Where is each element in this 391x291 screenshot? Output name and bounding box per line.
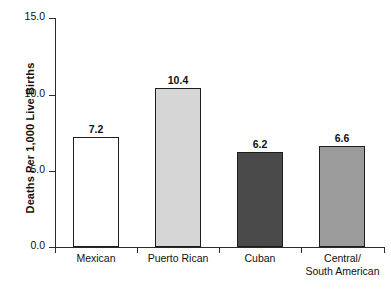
y-tick-label-0: 0.0 [30, 239, 45, 251]
x-category-label-puerto-rican: Puerto Rican [137, 252, 219, 265]
bar-central-south-american[interactable]: 6.6 [319, 146, 365, 247]
x-axis-line [55, 247, 385, 248]
x-category-label-central-south-american: Central/ South American [301, 252, 384, 277]
y-tick-label-5: 5.0 [30, 163, 45, 175]
x-category-label-mexican-line1: Mexican [76, 252, 115, 264]
x-tick-4 [384, 247, 385, 253]
bar-cuban[interactable]: 6.2 [237, 152, 283, 247]
bar-value-central-south-american: 6.6 [335, 132, 350, 144]
bar-value-cuban: 6.2 [253, 138, 268, 150]
y-axis-title: Deaths Per 1,000 Live Births [24, 38, 36, 238]
y-axis-line [55, 18, 56, 248]
y-tick-5: 5.0 [49, 171, 55, 172]
y-tick-label-10: 10.0 [25, 87, 45, 99]
bar-chart: Deaths Per 1,000 Live Births 15.0 10.0 5… [0, 0, 391, 291]
x-category-label-central-south-american-line1: Central/ [324, 252, 361, 264]
y-tick-10: 10.0 [49, 95, 55, 96]
y-tick-label-15: 15.0 [25, 10, 45, 22]
x-category-label-puerto-rican-line1: Puerto Rican [148, 252, 209, 264]
bar-value-mexican: 7.2 [89, 123, 104, 135]
bar-puerto-rican[interactable]: 10.4 [155, 88, 201, 247]
plot-area: 15.0 10.0 5.0 0.0 7.2 10.4 6.2 6.6 [55, 18, 385, 248]
bar-mexican[interactable]: 7.2 [73, 137, 119, 247]
bar-value-puerto-rican: 10.4 [168, 74, 188, 86]
x-category-label-cuban-line1: Cuban [245, 252, 276, 264]
y-tick-15: 15.0 [49, 18, 55, 19]
x-category-label-cuban: Cuban [219, 252, 301, 265]
x-category-label-mexican: Mexican [55, 252, 137, 265]
x-category-label-central-south-american-line2: South American [301, 265, 384, 278]
